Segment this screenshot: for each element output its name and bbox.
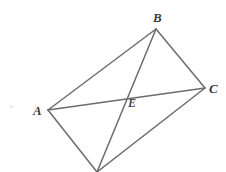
figure-canvas xyxy=(0,0,226,172)
vertex-label-b: B xyxy=(153,11,162,24)
vertex-label-c: C xyxy=(209,82,218,95)
vertex-label-e: E xyxy=(128,97,136,110)
scan-artifact-speck xyxy=(10,105,13,108)
geometry-figure: A B C E xyxy=(0,0,226,172)
segment-bc xyxy=(156,29,205,88)
vertex-label-a: A xyxy=(33,104,42,117)
segment-da xyxy=(48,110,97,172)
